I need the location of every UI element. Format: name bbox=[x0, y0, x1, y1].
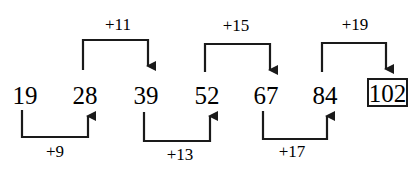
term-6: 84 bbox=[313, 82, 339, 109]
answer-term: 102 bbox=[369, 80, 407, 107]
diff-label-5: +17 bbox=[279, 142, 306, 161]
diff-label-2: +11 bbox=[105, 15, 131, 34]
number-sequence-diagram: 19 28 39 52 67 84 102 +9 +11 +13 +15 +17… bbox=[0, 0, 418, 173]
bracket-plus-13 bbox=[144, 112, 210, 141]
diff-label-3: +13 bbox=[167, 145, 194, 164]
diff-label-1: +9 bbox=[46, 142, 64, 161]
bracket-plus-11 bbox=[83, 40, 148, 70]
bracket-plus-17 bbox=[263, 111, 327, 139]
term-5: 67 bbox=[254, 82, 279, 109]
diff-label-6: +19 bbox=[342, 15, 369, 34]
bracket-plus-9 bbox=[22, 110, 88, 137]
term-2: 28 bbox=[73, 82, 98, 109]
bracket-plus-19 bbox=[322, 43, 386, 72]
bracket-plus-15 bbox=[205, 44, 270, 72]
bottom-brackets bbox=[22, 110, 327, 141]
term-1: 19 bbox=[13, 82, 38, 109]
term-3: 39 bbox=[134, 82, 159, 109]
term-4: 52 bbox=[195, 82, 220, 109]
top-brackets bbox=[83, 40, 386, 72]
diff-label-4: +15 bbox=[223, 16, 250, 35]
